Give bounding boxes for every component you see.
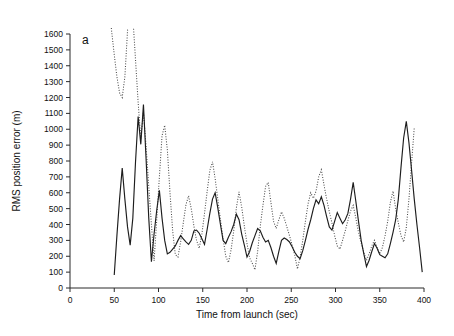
x-axis-ticks: 050100150200250300350400 (68, 288, 432, 305)
y-tick-label: 1400 (44, 61, 63, 71)
y-tick-label: 500 (49, 204, 63, 214)
y-tick-label: 200 (49, 251, 63, 261)
x-tick-label: 300 (328, 295, 342, 305)
y-tick-label: 1300 (44, 77, 63, 87)
x-axis-title: Time from launch (sec) (196, 309, 298, 320)
x-tick-label: 400 (417, 295, 431, 305)
y-tick-label: 400 (49, 220, 63, 230)
y-tick-label: 100 (49, 267, 63, 277)
y-tick-label: 1500 (44, 45, 63, 55)
figure-panel: 0100200300400500600700800900100011001200… (0, 0, 454, 336)
y-tick-label: 1100 (45, 108, 64, 118)
x-tick-label: 100 (151, 295, 165, 305)
x-tick-label: 0 (68, 295, 73, 305)
rms-position-error-chart: 0100200300400500600700800900100011001200… (0, 0, 454, 336)
y-tick-label: 300 (49, 235, 63, 245)
y-axis-title: RMS position error (m) (11, 110, 22, 211)
x-tick-label: 350 (373, 295, 387, 305)
series-layer (106, 0, 422, 275)
series-solid-line (114, 105, 422, 275)
x-tick-label: 150 (196, 295, 210, 305)
panel-label: a (82, 33, 89, 47)
y-tick-label: 0 (58, 283, 63, 293)
y-tick-label: 800 (49, 156, 63, 166)
y-tick-label: 600 (49, 188, 63, 198)
x-tick-label: 250 (284, 295, 298, 305)
y-tick-label: 900 (49, 140, 63, 150)
x-tick-label: 50 (110, 295, 120, 305)
y-tick-label: 1600 (44, 29, 63, 39)
y-tick-label: 1200 (44, 93, 63, 103)
series-dotted-line (106, 0, 414, 270)
x-tick-label: 200 (240, 295, 254, 305)
y-tick-label: 700 (49, 172, 63, 182)
y-tick-label: 1000 (44, 124, 63, 134)
y-axis-ticks: 0100200300400500600700800900100011001200… (44, 29, 70, 293)
